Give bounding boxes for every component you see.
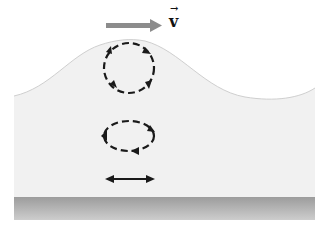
water-body — [14, 40, 315, 197]
velocity-label: → v — [169, 12, 178, 31]
sea-floor — [14, 197, 315, 220]
velocity-arrow — [106, 19, 162, 32]
wave-diagram — [0, 0, 330, 231]
vector-arrow-icon: → — [170, 3, 178, 14]
